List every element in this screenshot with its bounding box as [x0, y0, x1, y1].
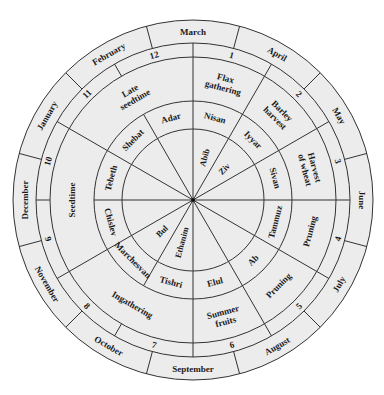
- month-label-september: September: [172, 364, 214, 374]
- hebrew-calendar-wheel: MarchAprilMayJuneJulyAugustSeptemberOcto…: [0, 0, 384, 395]
- month-label-march: March: [180, 27, 206, 37]
- activity-label-7: Seedtime: [67, 183, 77, 218]
- center-dot: [191, 198, 195, 202]
- month-label-june-text: June: [357, 191, 367, 210]
- month-label-june: June: [357, 191, 367, 210]
- month-label-december: December: [20, 181, 30, 220]
- month-label-december-text: December: [20, 181, 30, 220]
- month-label-september-text: September: [172, 364, 214, 374]
- activity-label-7-text: Seedtime: [67, 183, 77, 218]
- month-label-march-text: March: [180, 27, 206, 37]
